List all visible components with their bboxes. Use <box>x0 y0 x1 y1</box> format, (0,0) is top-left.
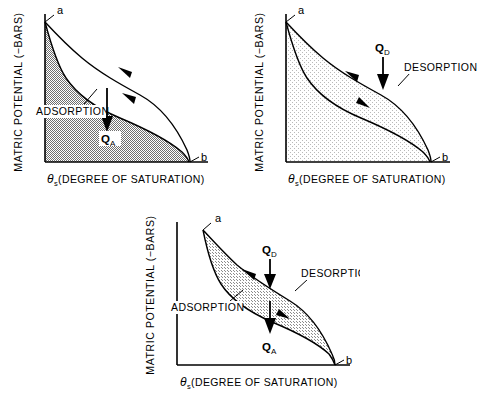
desorption-label: DESORPTION <box>402 61 477 74</box>
qd-label-subscript: D <box>384 48 390 57</box>
qd-label-subscript: D <box>271 250 277 259</box>
qd-label: Q D <box>375 42 390 57</box>
qd-label-symbol: Q <box>262 244 271 256</box>
qd-arrow <box>264 259 276 289</box>
desorption-leader <box>295 279 308 291</box>
adsorption-panel: ADSORPTION Q A a b MATRIC POTENTIAL (−BA… <box>0 0 240 200</box>
x-axis-label-text: (DEGREE OF SATURATION) <box>191 376 338 388</box>
x-axis-theta-symbol: θ <box>288 172 295 186</box>
y-axis-label: MATRIC POTENTIAL (−BARS) <box>144 215 156 374</box>
qd-label: Q D <box>262 244 277 259</box>
qa-label-symbol: Q <box>101 133 110 145</box>
hysteresis-loop-panel: Q D Q A DESORPTION ADSORPTION a b MATRIC… <box>110 198 360 399</box>
qa-label-symbol: Q <box>262 341 271 353</box>
flow-arrow-lower <box>122 93 136 104</box>
qa-label: Q A <box>99 131 121 148</box>
point-a-label: a <box>215 212 222 224</box>
desorption-leader <box>398 72 411 86</box>
hysteresis-figure: ADSORPTION Q A a b MATRIC POTENTIAL (−BA… <box>0 0 477 399</box>
x-axis-label-text: (DEGREE OF SATURATION) <box>299 173 446 185</box>
x-axis-label: θ s (DEGREE OF SATURATION) <box>180 375 338 391</box>
desorption-label: DESORPTION <box>299 267 360 280</box>
qa-label-subscript: A <box>110 139 116 148</box>
point-a-tick <box>203 223 211 230</box>
x-axis-label: θ s (DEGREE OF SATURATION) <box>288 172 446 188</box>
adsorption-label: ADSORPTION <box>34 105 109 118</box>
desorption-label-text: DESORPTION <box>404 61 477 73</box>
x-axis-theta-symbol: θ <box>47 172 54 186</box>
adsorption-label: ADSORPTION <box>169 301 244 314</box>
point-b-label: b <box>442 151 448 163</box>
qd-arrow <box>377 57 389 90</box>
qa-label: Q A <box>262 341 277 356</box>
x-axis-theta-symbol: θ <box>180 375 187 389</box>
shaded-desorption-area <box>286 22 431 162</box>
point-a-tick <box>286 15 295 22</box>
y-axis-label: MATRIC POTENTIAL (−BARS) <box>253 12 265 171</box>
point-b-label: b <box>346 354 352 366</box>
qd-label-symbol: Q <box>375 42 384 54</box>
desorption-panel: Q D DESORPTION a b MATRIC POTENTIAL (−BA… <box>238 0 477 200</box>
x-axis-label: θ s (DEGREE OF SATURATION) <box>47 172 205 188</box>
point-b-label: b <box>201 151 207 163</box>
qa-label-subscript: A <box>271 347 277 356</box>
desorption-label-text: DESORPTION <box>301 267 360 279</box>
point-a-label: a <box>57 4 64 16</box>
y-axis-label: MATRIC POTENTIAL (−BARS) <box>12 12 24 171</box>
flow-arrow-upper <box>118 67 132 78</box>
point-a-label: a <box>298 4 305 16</box>
x-axis-label-text: (DEGREE OF SATURATION) <box>58 173 205 185</box>
adsorption-label-text: ADSORPTION <box>171 301 244 313</box>
adsorption-label-text: ADSORPTION <box>36 105 109 117</box>
point-a-tick <box>45 15 54 22</box>
